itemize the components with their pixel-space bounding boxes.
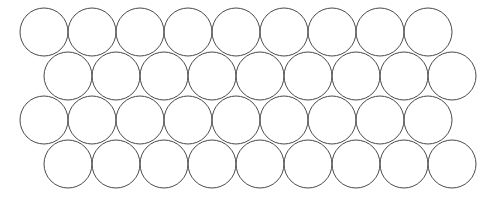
circle-row-group-3: [20, 96, 452, 144]
packed-circle: [140, 52, 188, 100]
packed-circle: [380, 140, 428, 188]
circle-row-group-1: [20, 8, 452, 56]
packed-circle: [20, 96, 68, 144]
packed-circle: [140, 140, 188, 188]
packed-circle: [332, 52, 380, 100]
packed-circle: [260, 96, 308, 144]
packed-circle: [212, 8, 260, 56]
packed-circle: [236, 140, 284, 188]
packed-circle: [356, 8, 404, 56]
packed-circle: [44, 140, 92, 188]
packed-circle: [164, 96, 212, 144]
packed-circle: [44, 52, 92, 100]
packed-circle: [308, 96, 356, 144]
packed-circle: [92, 52, 140, 100]
packed-circle: [404, 96, 452, 144]
packed-circle: [284, 140, 332, 188]
packed-circle: [116, 8, 164, 56]
packed-circle: [68, 8, 116, 56]
packed-circle: [164, 8, 212, 56]
packed-circle: [116, 96, 164, 144]
packed-circle: [92, 140, 140, 188]
packed-circle: [380, 52, 428, 100]
packed-circle: [428, 52, 476, 100]
packed-circle: [308, 8, 356, 56]
circle-row-group-4: [44, 140, 476, 188]
circle-packing-canvas: [0, 0, 484, 199]
packed-circle: [428, 140, 476, 188]
packed-circle: [332, 140, 380, 188]
packed-circle: [68, 96, 116, 144]
packed-circle: [188, 52, 236, 100]
packed-circle: [260, 8, 308, 56]
circle-row-group-2: [44, 52, 476, 100]
packed-circle: [20, 8, 68, 56]
packed-circle: [188, 140, 236, 188]
circle-packing-figure: [0, 0, 484, 199]
packed-circle: [284, 52, 332, 100]
packed-circle: [356, 96, 404, 144]
packed-circle: [236, 52, 284, 100]
packed-circle: [212, 96, 260, 144]
packed-circle: [404, 8, 452, 56]
